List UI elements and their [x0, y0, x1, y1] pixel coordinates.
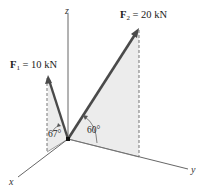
- f2-label: F2 = 20 kN: [120, 9, 167, 22]
- force-diagram: F1 = 10 kN F2 = 20 kN 67° 60° z x y: [0, 0, 203, 194]
- z-axis-label: z: [64, 5, 69, 16]
- f1-angle-label: 67°: [48, 129, 62, 139]
- f1-label: F1 = 10 kN: [10, 59, 57, 72]
- f1-arrowhead-icon: [45, 75, 52, 84]
- x-axis: [18, 139, 68, 177]
- x-axis-label: x: [8, 176, 14, 187]
- f2-plane-shading: [68, 28, 139, 157]
- origin-point: [66, 137, 70, 141]
- f2-angle-label: 60°: [87, 125, 101, 135]
- y-axis-label: y: [190, 164, 196, 175]
